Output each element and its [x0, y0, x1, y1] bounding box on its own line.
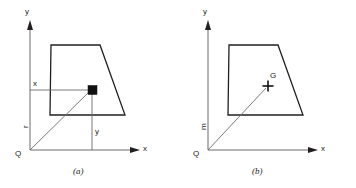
panel-a-coord-x-label: x — [33, 80, 37, 88]
panel-a-y-axis-label: y — [25, 8, 29, 16]
panel-a-position-vector — [30, 91, 90, 150]
diagram-canvas — [0, 0, 356, 188]
panel-b-trapezoid — [228, 45, 303, 115]
panel-a-group — [27, 20, 140, 153]
panel-b-x-axis-arrowhead — [308, 147, 318, 153]
panel-b-y-axis-label: y — [203, 8, 207, 16]
panel-b-x-axis-label: x — [321, 145, 325, 153]
panel-b-origin-label: Q — [193, 150, 199, 158]
panel-b-y-axis-arrowhead — [205, 20, 211, 30]
panel-a-vector-label: r — [22, 125, 30, 128]
panel-a-point-marker — [88, 86, 97, 95]
panel-a-x-axis-label: x — [143, 145, 147, 153]
panel-a-x-axis-arrowhead — [130, 147, 140, 153]
panel-b-caption: (b) — [252, 167, 263, 176]
panel-a-caption: (a) — [73, 167, 84, 176]
panel-a-trapezoid — [50, 45, 125, 115]
panel-a-origin-label: Q — [15, 150, 21, 158]
panel-a-y-axis-arrowhead — [27, 20, 33, 30]
panel-b-position-vector — [208, 88, 266, 150]
panel-b-vector-label: m — [200, 123, 208, 130]
panel-a-coord-y-label: y — [95, 128, 99, 136]
panel-b-group — [205, 20, 318, 153]
panel-b-centroid-label: G — [270, 72, 276, 80]
figure-container: y x Q x y r (a) y x Q G m (b) — [0, 0, 356, 188]
